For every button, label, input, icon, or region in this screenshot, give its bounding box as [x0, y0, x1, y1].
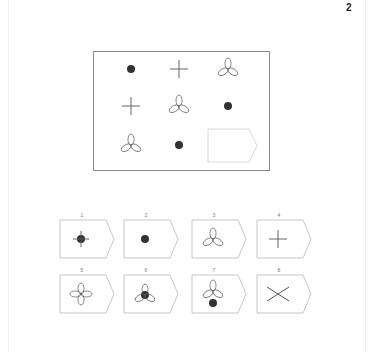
trefoil-figure [217, 58, 239, 77]
petal-shape [128, 134, 134, 145]
option-number: 2 [145, 212, 148, 218]
petal-shape [78, 294, 84, 305]
option-number: 7 [213, 267, 216, 273]
petal-shape [70, 291, 81, 297]
plus-figure [269, 230, 287, 248]
dot-shape [224, 102, 232, 110]
plus-figure [73, 231, 89, 247]
petal-shape [202, 236, 215, 247]
petal-shape [178, 103, 191, 114]
dot-shape [175, 141, 183, 149]
answer-option-7 [192, 275, 246, 313]
petal-shape [202, 288, 215, 299]
petal-shape [176, 95, 182, 106]
option-number: 6 [145, 267, 148, 273]
dot-figure [224, 102, 232, 110]
dot-figure [127, 65, 135, 73]
answer-option-5 [60, 275, 114, 313]
option-number: 3 [213, 212, 216, 218]
plus-figure [122, 97, 140, 115]
option-number: 8 [278, 267, 281, 273]
petal-shape [227, 66, 240, 77]
dot-shape [141, 235, 149, 243]
petal-shape [225, 58, 231, 69]
petal-shape [212, 236, 225, 247]
trefoil-figure [168, 95, 190, 114]
answer-option-2 [124, 220, 178, 258]
dot-figure [141, 235, 149, 243]
petal-shape [168, 103, 181, 114]
puzzle-canvas: 12345678 [0, 0, 372, 352]
petal-shape [134, 292, 147, 303]
answer-option-6 [124, 275, 178, 313]
option-number: 5 [81, 267, 84, 273]
option-number: 4 [278, 212, 281, 218]
x-cross-figure [267, 287, 289, 301]
petal-shape [144, 292, 157, 303]
petal-shape [217, 66, 230, 77]
trefoil-with-dot-below-figure [209, 299, 217, 307]
petal-shape [210, 228, 216, 239]
dot-shape [127, 65, 135, 73]
trefoil-figure [120, 134, 142, 153]
petal-shape [120, 142, 133, 153]
trefoil-figure [202, 280, 224, 299]
trefoil-figure [202, 228, 224, 247]
answer-option-8 [257, 275, 311, 313]
answer-slot [208, 129, 257, 162]
dot-figure [175, 141, 183, 149]
petal-shape [78, 283, 84, 294]
petal-shape [130, 142, 143, 153]
dot-shape [209, 299, 217, 307]
petal-shape [81, 291, 92, 297]
option-number: 1 [81, 212, 84, 218]
petal-shape [212, 288, 225, 299]
four-petal-figure [70, 283, 92, 305]
petal-shape [210, 280, 216, 291]
plus-figure [170, 60, 188, 78]
